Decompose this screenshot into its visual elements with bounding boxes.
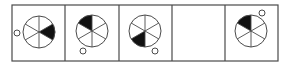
panel-5 — [235, 10, 267, 47]
panel-3 — [129, 15, 161, 54]
panel-1 — [14, 16, 55, 48]
shaded-sector — [237, 15, 251, 31]
small-circle-bottom-left — [80, 48, 86, 54]
small-circle-top-right — [259, 10, 265, 16]
shaded-sector — [78, 15, 92, 31]
figure-sequence-puzzle — [0, 0, 285, 65]
shaded-sector — [131, 31, 145, 47]
shaded-sector — [39, 24, 55, 40]
panels — [14, 10, 267, 54]
small-circle-left — [14, 30, 20, 36]
small-circle-bottom-right — [152, 48, 158, 54]
panel-2 — [76, 15, 108, 54]
